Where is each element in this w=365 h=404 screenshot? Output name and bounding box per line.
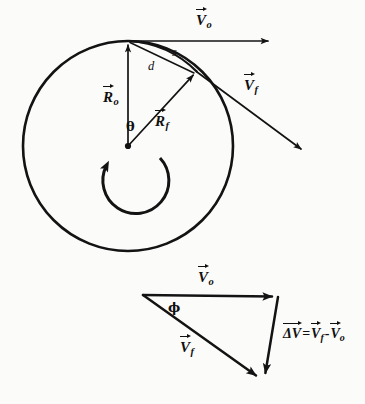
rotation-direction-arc bbox=[103, 158, 169, 214]
label-angle-theta: θ bbox=[126, 120, 135, 133]
upper-diagram-group bbox=[23, 41, 301, 251]
label-delta-V-equation: ΔV=Vf-Vo bbox=[283, 327, 345, 341]
vector-delta-V bbox=[265, 297, 278, 373]
lower-diagram-group bbox=[143, 295, 278, 376]
label-V-final-upper: Vf bbox=[244, 78, 258, 93]
label-angle-phi: ϕ bbox=[168, 301, 180, 314]
label-V-initial-lower: Vo bbox=[198, 270, 213, 285]
label-R-initial: Ro bbox=[103, 90, 118, 105]
label-V-final-lower: Vf bbox=[180, 340, 194, 355]
figure-root: Vo s d Ro Rf θ Vf Vo ϕ Vf ΔV=Vf-Vo bbox=[0, 0, 365, 404]
label-chord-d: d bbox=[148, 60, 154, 73]
vector-V-final-lower bbox=[143, 295, 256, 376]
label-arc-s: s bbox=[172, 46, 177, 59]
vector-V-initial-lower bbox=[143, 295, 272, 297]
label-V-initial-upper: Vo bbox=[196, 13, 211, 28]
label-R-final: Rf bbox=[155, 114, 169, 129]
